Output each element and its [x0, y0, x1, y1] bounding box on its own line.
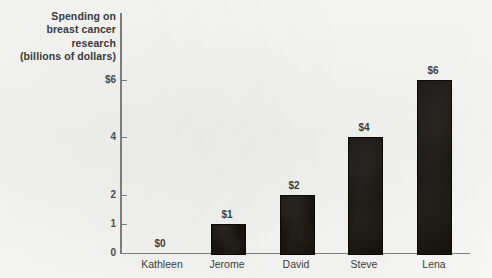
- y-tick-label-6-wrap: $6: [84, 74, 116, 86]
- bar-david: [280, 195, 315, 255]
- y-tick-label-2: 2: [84, 189, 116, 200]
- y-tick-label-4-wrap: 4: [84, 131, 116, 143]
- category-label-jerome: Jerome: [199, 258, 255, 270]
- bar-value-label-kathleen: $0: [137, 238, 183, 249]
- bar-jerome: [211, 224, 246, 255]
- y-tick-label-1-wrap: 1: [84, 218, 116, 230]
- category-label-david: David: [268, 258, 324, 270]
- chart-title: Spending on breast cancer research (bill…: [8, 10, 116, 64]
- chart-title-line-3: research: [8, 37, 116, 50]
- category-label-steve: Steve: [336, 258, 392, 270]
- y-tick-label-1: 1: [84, 218, 116, 229]
- y-tick-mark-2: [121, 195, 127, 196]
- y-tick-label-0-wrap: 0: [84, 247, 116, 259]
- y-tick-label-0: 0: [84, 247, 116, 258]
- chart-title-line-1: Spending on: [8, 10, 116, 23]
- y-tick-label-4: 4: [84, 131, 116, 142]
- y-tick-label-6: $6: [84, 74, 116, 85]
- y-axis-line: [120, 13, 122, 254]
- y-tick-mark-4: [121, 137, 127, 138]
- bar-value-label-david: $2: [271, 180, 317, 191]
- bar-value-label-steve: $4: [341, 122, 387, 133]
- y-tick-mark-1: [121, 224, 127, 225]
- bar-chart-figure: Spending on breast cancer research (bill…: [0, 0, 492, 278]
- category-label-lena: Lena: [406, 258, 462, 270]
- bar-value-label-lena: $6: [410, 65, 456, 76]
- category-label-kathleen: Kathleen: [134, 258, 190, 270]
- chart-title-line-4: (billions of dollars): [8, 50, 116, 63]
- chart-title-line-2: breast cancer: [8, 23, 116, 36]
- bar-value-label-jerome: $1: [204, 209, 250, 220]
- y-tick-label-2-wrap: 2: [84, 189, 116, 201]
- bar-lena: [417, 80, 452, 255]
- bar-steve: [348, 137, 383, 255]
- y-tick-mark-6: [121, 80, 127, 81]
